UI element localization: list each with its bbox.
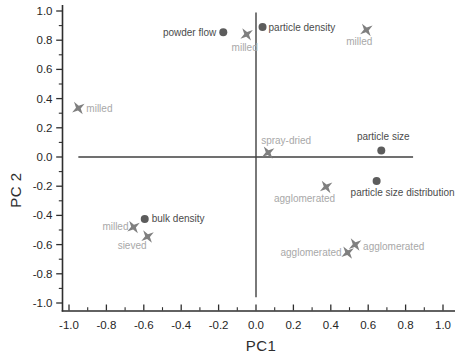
loadings-point-marker (377, 146, 385, 154)
pca-plot: -1.0-0.8-0.6-0.4-0.20.00.20.40.60.81.0-1… (0, 0, 466, 364)
scores-point-label: agglomerated (280, 247, 341, 258)
scores-point-marker (240, 28, 252, 40)
scores-point-label: agglomerated (274, 193, 335, 204)
y-tick-label: 0.0 (37, 151, 53, 163)
loadings-point-label: particle density (269, 22, 336, 33)
scores-point-label: milled (86, 103, 112, 114)
loadings-point-label: particle size (357, 131, 410, 142)
x-tick-label: 0.8 (398, 319, 414, 331)
y-tick-label: -0.8 (33, 268, 53, 280)
y-tick-label: 0.8 (37, 34, 53, 46)
y-tick-label: -0.4 (33, 209, 53, 221)
y-tick-label: 0.2 (37, 122, 53, 134)
x-tick-label: -1.0 (59, 319, 79, 331)
loadings-point-label: bulk density (152, 213, 205, 224)
y-tick-label: -0.2 (33, 180, 53, 192)
loadings-point-marker (141, 215, 149, 223)
y-tick-label: 1.0 (37, 5, 53, 17)
loadings-point-label: powder flow (163, 27, 217, 38)
x-tick-label: 1.0 (435, 319, 451, 331)
x-tick-label: -0.4 (171, 319, 191, 331)
x-axis-title: PC1 (231, 337, 291, 355)
loadings-point-label: particle size distribution (351, 187, 455, 198)
y-tick-label: 0.4 (37, 93, 54, 105)
y-tick-label: 0.6 (37, 63, 53, 75)
scores-point-label: sieved (118, 240, 147, 251)
scores-point-marker (320, 181, 332, 193)
y-tick-label: -1.0 (33, 297, 53, 309)
y-axis-title: PC 2 (7, 160, 25, 220)
loadings-point-marker (373, 177, 381, 185)
loadings-point-marker (219, 28, 227, 36)
scores-point-marker (127, 221, 139, 233)
x-tick-label: -0.8 (96, 319, 116, 331)
scores-point-marker (72, 102, 84, 114)
loadings-point-marker (259, 23, 267, 31)
x-tick-label: -0.2 (209, 319, 229, 331)
scores-point-label: milled (102, 221, 128, 232)
y-tick-label: -0.6 (33, 239, 53, 251)
x-tick-label: 0.2 (285, 319, 301, 331)
x-tick-label: 0.4 (323, 319, 340, 331)
scores-point-label: agglomerated (363, 241, 424, 252)
x-tick-label: 0.6 (360, 319, 376, 331)
scores-point-marker (360, 24, 372, 36)
x-tick-label: -0.6 (134, 319, 154, 331)
scores-point-marker (341, 246, 353, 258)
scores-point-label: milled (232, 42, 258, 53)
scores-point-label: milled (346, 36, 372, 47)
scores-point-marker (349, 238, 361, 250)
pca-biplot-figure: -1.0-0.8-0.6-0.4-0.20.00.20.40.60.81.0-1… (0, 0, 466, 364)
scores-point-label: spray-dried (261, 135, 311, 146)
x-tick-label: 0.0 (248, 319, 264, 331)
